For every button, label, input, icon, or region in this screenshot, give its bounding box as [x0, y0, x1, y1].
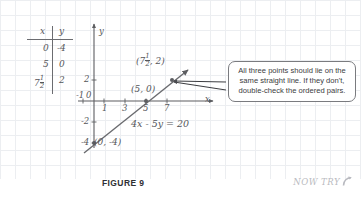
now-try-label: NOW TRY — [293, 177, 340, 187]
y-tick-label-neg4: -4 — [81, 137, 89, 147]
equation-label: 4x - 5y = 20 — [131, 118, 189, 129]
point-label-5-0: (5, 0) — [131, 84, 155, 94]
x-tick-label-0: 0 — [86, 90, 91, 100]
x-axis-label: x — [205, 94, 210, 104]
point-label-tail: , 2) — [150, 56, 165, 66]
callout-pointer-lower — [174, 82, 226, 90]
y-tick-label-neg2: -2 — [81, 116, 89, 126]
point-label-whole: (7 — [136, 56, 145, 66]
figure-9-page: x y 0 -4 5 0 712 2 — [0, 0, 361, 199]
now-try-marker: NOW TRY — [293, 176, 353, 187]
plotted-point-7half-2 — [170, 78, 174, 82]
point-label-7half-2: (712, 2) — [136, 53, 165, 68]
x-tick-label-5: 5 — [143, 103, 148, 113]
callout-pointer-upper — [174, 81, 226, 82]
x-tick-label-neg1: -1 — [76, 90, 84, 100]
point-label-0-neg4: (0, -4) — [94, 137, 121, 147]
x-tick-label-7: 7 — [164, 103, 169, 113]
x-tick-label-1: 1 — [102, 103, 107, 113]
figure-caption: FIGURE 9 — [102, 178, 144, 188]
callout-text: All three points should lie on the same … — [238, 66, 346, 95]
y-axis-label: y — [99, 26, 104, 36]
callout-box: All three points should lie on the same … — [228, 61, 356, 102]
curved-arrow-icon — [342, 176, 353, 187]
y-tick-label-2: 2 — [84, 74, 89, 84]
x-tick-label-3: 3 — [122, 103, 127, 113]
